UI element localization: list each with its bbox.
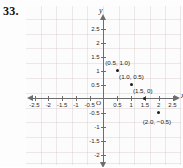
- data-point-label: (2.0, −0.5): [143, 119, 171, 125]
- problem-number: 33.: [3, 4, 19, 19]
- y-tick-label: 2: [78, 40, 100, 46]
- x-tick-mark: [173, 96, 174, 101]
- y-axis-arrow-down-icon: [100, 162, 106, 167]
- y-tick-label: 1: [78, 68, 100, 74]
- x-tick-mark: [48, 96, 49, 101]
- data-point-label: (1.5, 0): [133, 88, 153, 94]
- data-point-label: (0.5, 1.0): [105, 60, 130, 66]
- x-tick-mark: [131, 96, 132, 101]
- data-point: [116, 69, 119, 72]
- x-tick-mark: [62, 96, 63, 101]
- data-point-label: (1.0, 0.5): [119, 74, 144, 80]
- y-tick-label: 0.5: [78, 82, 100, 88]
- x-tick-label: -0.5: [80, 102, 100, 108]
- y-axis-label: y: [99, 6, 103, 15]
- x-tick-mark: [35, 96, 36, 101]
- data-point: [130, 83, 133, 86]
- y-tick-label: -1: [78, 124, 100, 130]
- y-tick-label: 2.5: [78, 26, 100, 32]
- y-tick-mark: [101, 155, 106, 156]
- y-tick-label: -2: [78, 152, 100, 158]
- x-axis-arrow-right-icon: [174, 95, 180, 101]
- exercise-figure: 33. x y O -2.5-2-1.5-1-0.50.511.522.5 2.…: [0, 0, 183, 167]
- y-tick-mark: [101, 29, 106, 30]
- y-tick-mark: [101, 127, 106, 128]
- y-tick-mark: [101, 141, 106, 142]
- coordinate-plane: x y O -2.5-2-1.5-1-0.50.511.522.5 2.521.…: [26, 6, 181, 165]
- x-axis-arrow-left-icon: [27, 95, 33, 101]
- y-tick-label: -2.5: [78, 166, 100, 168]
- x-tick-mark: [90, 96, 91, 101]
- x-tick-mark: [76, 96, 77, 101]
- y-tick-mark: [101, 43, 106, 44]
- x-tick-mark: [159, 96, 160, 101]
- x-axis-label: x: [181, 91, 183, 100]
- y-tick-mark: [101, 113, 106, 114]
- x-tick-label: 2.5: [163, 102, 183, 108]
- y-tick-label: 1.5: [78, 54, 100, 60]
- y-tick-mark: [101, 57, 106, 58]
- x-tick-mark: [117, 96, 118, 101]
- y-tick-label: -0.5: [78, 110, 100, 116]
- y-tick-mark: [101, 85, 106, 86]
- y-tick-mark: [101, 71, 106, 72]
- y-tick-label: -1.5: [78, 138, 100, 144]
